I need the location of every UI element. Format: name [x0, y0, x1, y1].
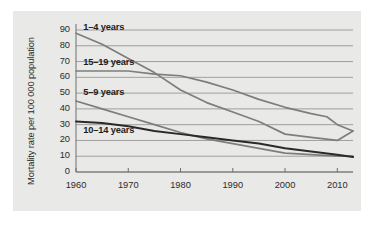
axis-lines: [76, 24, 353, 172]
series-label-4: 10–14 years: [83, 125, 134, 135]
series-label-1: 1–4 years: [83, 22, 124, 32]
series-label-2: 15–19 years: [83, 57, 134, 67]
series-label-3: 5–9 years: [83, 87, 124, 97]
series-line-2: [76, 71, 353, 131]
line-chart-plot: [13, 11, 361, 211]
chart-figure: Mortality rate per 100 000 population 01…: [13, 11, 361, 211]
